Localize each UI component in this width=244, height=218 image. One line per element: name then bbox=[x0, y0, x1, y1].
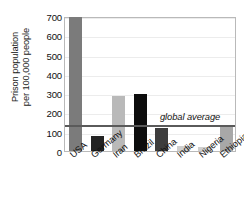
y-axis-tick-label: 700 bbox=[30, 12, 62, 23]
plot-area bbox=[64, 17, 236, 152]
bars-layer bbox=[65, 18, 235, 151]
y-axis-tick-label: 0 bbox=[30, 147, 62, 158]
global-average-label: global average bbox=[160, 111, 220, 122]
y-axis-tick-label: 200 bbox=[30, 108, 62, 119]
prison-population-bar-chart: Prison population per 100,000 people 010… bbox=[0, 0, 244, 218]
y-axis-tick-label: 300 bbox=[30, 89, 62, 100]
bar bbox=[69, 17, 82, 151]
y-axis-tick-label: 600 bbox=[30, 31, 62, 42]
y-axis-tick-label: 400 bbox=[30, 69, 62, 80]
y-axis-title-line-1: Prison population bbox=[10, 2, 21, 132]
y-axis-tick-labels: 0100200300400500600700 bbox=[30, 0, 62, 218]
global-average-line bbox=[65, 125, 235, 127]
y-axis-tick-label: 500 bbox=[30, 50, 62, 61]
x-axis-tick-labels: USAGermanyIranBrazilChinaIndiaNigeriaEth… bbox=[64, 152, 236, 218]
y-axis-tick-label: 100 bbox=[30, 127, 62, 138]
